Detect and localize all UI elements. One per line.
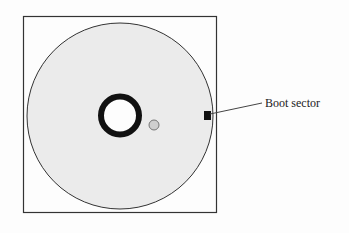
boot-sector-label: Boot sector [265, 96, 320, 111]
center-hub-ring [101, 97, 139, 135]
leader-line [210, 103, 262, 114]
index-hole [149, 120, 159, 130]
boot-sector-marker [204, 111, 211, 120]
disk-diagram [0, 0, 349, 233]
